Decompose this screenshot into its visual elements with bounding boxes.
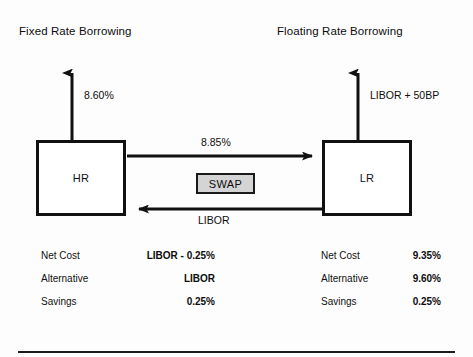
party-box-lr[interactable]: LR xyxy=(322,140,412,216)
footer-divider xyxy=(18,351,455,353)
table-row-key: Net Cost xyxy=(321,250,391,261)
table-row: Net Cost LIBOR - 0.25% xyxy=(41,250,215,273)
table-row: Savings 0.25% xyxy=(41,296,215,319)
table-row-value: 9.35% xyxy=(391,250,441,261)
table-row-value: LIBOR - 0.25% xyxy=(115,250,215,261)
swap-diagram-page: Fixed Rate Borrowing Floating Rate Borro… xyxy=(0,0,473,357)
table-row: Savings 0.25% xyxy=(321,296,441,319)
swap-box[interactable]: SWAP xyxy=(196,173,255,194)
summary-table-left: Net Cost LIBOR - 0.25% Alternative LIBOR… xyxy=(41,250,215,319)
table-row: Alternative 9.60% xyxy=(321,273,441,296)
table-row-key: Alternative xyxy=(41,273,115,284)
table-row-key: Net Cost xyxy=(41,250,115,261)
label-right-outflow-rate: LIBOR + 50BP xyxy=(370,89,439,101)
table-row: Alternative LIBOR xyxy=(41,273,215,296)
label-left-outflow-rate: 8.60% xyxy=(84,89,114,101)
table-row-value: 0.25% xyxy=(391,296,441,307)
party-box-hr[interactable]: HR xyxy=(36,140,126,216)
table-row-key: Savings xyxy=(41,296,115,307)
party-box-hr-label: HR xyxy=(73,172,90,184)
table-row-value: 0.25% xyxy=(115,296,215,307)
party-box-lr-label: LR xyxy=(360,172,375,184)
label-bottom-flow-rate: LIBOR xyxy=(198,214,230,226)
swap-box-label: SWAP xyxy=(209,178,243,190)
table-row-key: Savings xyxy=(321,296,391,307)
table-row-value: LIBOR xyxy=(115,273,215,284)
summary-table-right: Net Cost 9.35% Alternative 9.60% Savings… xyxy=(321,250,441,319)
table-row-key: Alternative xyxy=(321,273,391,284)
table-row-value: 9.60% xyxy=(391,273,441,284)
table-row: Net Cost 9.35% xyxy=(321,250,441,273)
label-top-flow-rate: 8.85% xyxy=(201,136,231,148)
